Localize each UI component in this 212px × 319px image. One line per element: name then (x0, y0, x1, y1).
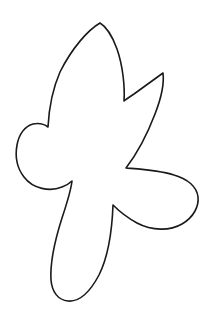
leaf-outline-svg (0, 0, 212, 319)
drawing-canvas (0, 0, 212, 319)
